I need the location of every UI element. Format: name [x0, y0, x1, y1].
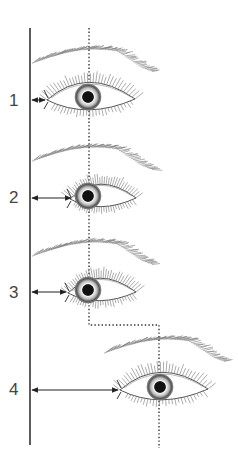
eye-position-diagram: 1234 [0, 0, 238, 471]
eye-label-3: 3 [9, 283, 18, 302]
eye-label-1: 1 [9, 91, 18, 110]
eye-group-container: 1234 [9, 45, 233, 407]
eye-3: 3 [9, 238, 160, 309]
eyebrow-icon [32, 144, 162, 171]
eye-1: 1 [9, 45, 159, 117]
pupil [83, 191, 94, 202]
eye-2: 2 [9, 144, 162, 214]
pupil [155, 382, 166, 393]
pupil [83, 92, 94, 103]
eyebrow-icon [32, 45, 159, 71]
pupil [83, 285, 94, 296]
eyebrow-icon [32, 238, 160, 264]
eyebrow-icon [104, 336, 233, 362]
eye-label-4: 4 [9, 380, 18, 399]
eye-label-2: 2 [9, 188, 18, 207]
eye-4: 4 [9, 336, 233, 407]
